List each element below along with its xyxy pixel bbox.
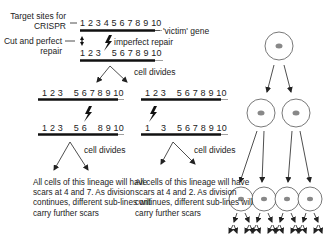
label-victim-gene: 'victim' gene bbox=[163, 26, 209, 36]
cell-gen2 bbox=[282, 99, 310, 127]
label-imperfect-repair: imperfect repair bbox=[114, 37, 173, 47]
lightning-icon bbox=[149, 106, 157, 122]
sequence-after-repair: 1 2 3 5 6 7 8 9 10 bbox=[80, 48, 162, 58]
label-target-sites: Target sites for bbox=[0, 11, 66, 21]
label-cut-perfect: Cut and perfect bbox=[0, 36, 62, 46]
cell-gen2 bbox=[247, 99, 275, 127]
perfect-repair-icon bbox=[80, 36, 84, 46]
note-right-lineage: All cells of this lineage will have scar… bbox=[135, 178, 260, 219]
lightning-icon bbox=[84, 106, 92, 122]
label-crispr: CRISPR bbox=[0, 21, 66, 31]
label-cell-divides-2: cell divides bbox=[84, 145, 126, 155]
label-cell-divides-3: cell divides bbox=[194, 145, 236, 155]
sequence-left-scarred: 1 2 3 5 6 8 9 10 bbox=[42, 123, 124, 133]
sequence-right-daughter: 1 2 3 5 6 7 8 9 10 bbox=[145, 88, 227, 98]
label-repair: repair bbox=[0, 46, 62, 56]
cell-gen3 bbox=[298, 187, 322, 211]
sequence-left-daughter: 1 2 3 5 6 7 8 9 10 bbox=[42, 88, 124, 98]
label-cell-divides-1: cell divides bbox=[134, 67, 176, 77]
sequence-original: 1 2 3 4 5 6 7 8 9 10 bbox=[80, 18, 162, 28]
cell-gen3 bbox=[275, 187, 299, 211]
sequence-right-scarred: 1 3 5 6 7 8 9 10 bbox=[145, 123, 227, 133]
cell-root bbox=[265, 32, 293, 60]
